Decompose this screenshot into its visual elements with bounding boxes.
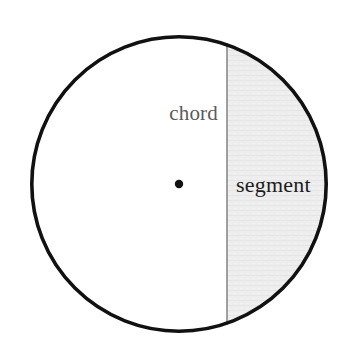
chord-label: chord <box>169 103 218 124</box>
center-point-dot <box>175 180 183 188</box>
circle-diagram-figure: chord segment <box>0 0 349 353</box>
segment-label: segment <box>236 174 311 196</box>
